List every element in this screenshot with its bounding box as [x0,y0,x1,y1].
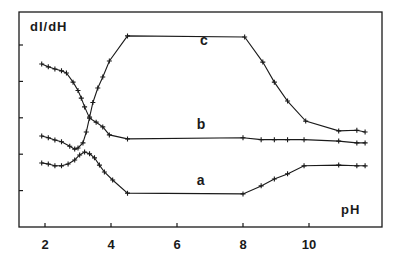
plus-marker-icon [95,85,100,90]
plus-marker-icon [90,100,95,105]
plus-marker-icon [59,139,64,144]
plus-marker-icon [82,104,87,109]
plus-marker-icon [363,129,368,134]
plus-marker-icon [272,176,277,181]
chart: 246810 dI/dH pH a b c [0,0,395,261]
plus-marker-icon [67,144,72,149]
x-tick-label: 8 [239,237,246,252]
plus-marker-icon [285,171,290,176]
series-label-a: a [197,172,205,188]
plus-marker-icon [46,162,51,167]
plus-marker-icon [52,163,57,168]
x-tick-label: 4 [107,237,115,252]
plus-marker-icon [302,163,307,168]
plus-marker-icon [336,163,341,168]
plus-marker-icon [363,140,368,145]
plus-marker-icon [354,163,359,168]
series-label-c: c [200,32,208,48]
series-b [39,61,367,145]
plus-marker-icon [76,88,81,93]
plus-marker-icon [52,138,57,143]
plus-marker-icon [100,75,105,80]
plus-marker-icon [72,147,77,152]
plus-marker-icon [79,96,84,101]
series-line [42,36,365,149]
plus-marker-icon [39,160,44,165]
series-c [39,33,367,151]
plus-marker-icon [39,134,44,139]
plus-marker-icon [363,163,368,168]
plus-marker-icon [302,137,307,142]
plus-marker-icon [354,140,359,145]
plus-marker-icon [354,128,359,133]
plus-marker-icon [285,137,290,142]
x-tick-label: 6 [173,237,180,252]
plus-marker-icon [82,150,87,155]
x-tick-label: 10 [302,237,316,252]
plus-marker-icon [59,68,64,73]
plus-marker-icon [125,136,130,141]
series-label-b: b [197,116,206,132]
plus-marker-icon [46,64,51,69]
plus-marker-icon [52,67,57,72]
plus-marker-icon [336,139,341,144]
y-axis-label: dI/dH [30,19,68,34]
plus-marker-icon [259,137,264,142]
plus-marker-icon [66,162,71,167]
plus-marker-icon [241,135,246,140]
x-tick-label: 2 [41,237,48,252]
plus-marker-icon [84,129,89,134]
plus-marker-icon [39,61,44,66]
plus-marker-icon [46,135,51,140]
x-axis-label: pH [341,202,360,217]
plus-marker-icon [59,163,64,168]
plus-marker-icon [241,191,246,196]
plus-marker-icon [336,128,341,133]
plus-marker-icon [259,183,264,188]
plus-marker-icon [272,137,277,142]
